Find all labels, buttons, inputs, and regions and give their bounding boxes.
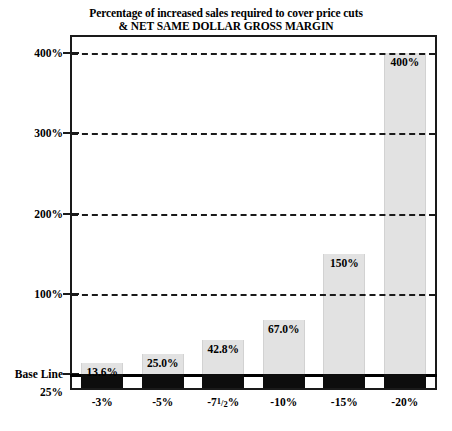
baseline-rule — [70, 374, 437, 377]
bar-value-label: 400% — [390, 56, 419, 68]
y-axis-label-400: 400% — [34, 47, 63, 59]
x-axis: -3%-5%-71/2%-10%-15%-20% — [72, 396, 435, 416]
chart-title-line-1: Percentage of increased sales required t… — [0, 7, 452, 20]
gridline-200 — [72, 214, 435, 216]
x-axis-label: -5% — [152, 396, 173, 408]
plot-inner: 13.6%25.0%42.8%67.0%150%400% — [72, 37, 435, 388]
bar-group[interactable]: 67.0% — [263, 37, 305, 388]
bar-value-label: 67.0% — [268, 323, 300, 335]
x-axis-label: -10% — [270, 396, 297, 408]
bar-group[interactable]: 42.8% — [202, 37, 244, 388]
gridline-400 — [72, 53, 435, 55]
bar-below-baseline[interactable] — [384, 374, 426, 388]
bar-value-label: 13.6% — [86, 366, 118, 378]
y-axis-label-baseline: Base Line — [15, 368, 63, 380]
chart-title-line-2: & NET SAME DOLLAR GROSS MARGIN — [0, 20, 452, 33]
x-axis-label-fraction: 1/2 — [217, 398, 228, 408]
x-axis-label-suffix: % — [228, 396, 240, 408]
x-axis-label: -3% — [92, 396, 113, 408]
y-axis-label-300: 300% — [34, 127, 63, 139]
bar-group[interactable]: 25.0% — [142, 37, 184, 388]
y-axis-label-200: 200% — [34, 208, 63, 220]
bar-group[interactable]: 13.6% — [81, 37, 123, 388]
bar-below-baseline[interactable] — [263, 374, 305, 388]
bar-value-label: 25.0% — [147, 357, 179, 369]
bar-value-label: 42.8% — [207, 343, 239, 355]
chart-root: Percentage of increased sales required t… — [0, 0, 452, 431]
bar-below-baseline[interactable] — [323, 374, 365, 388]
x-axis-label-integer: -7 — [207, 396, 217, 408]
bars-layer: 13.6%25.0%42.8%67.0%150%400% — [72, 37, 435, 388]
y-axis-label-below-baseline: 25% — [40, 386, 63, 398]
bar-value-label: 150% — [330, 257, 359, 269]
x-axis-label: -15% — [331, 396, 358, 408]
y-axis-label-100: 100% — [34, 288, 63, 300]
chart-title: Percentage of increased sales required t… — [0, 7, 452, 33]
x-axis-label: -20% — [391, 396, 418, 408]
gridline-100 — [72, 294, 435, 296]
bar-group[interactable]: 400% — [384, 37, 426, 388]
bar-above-baseline[interactable] — [323, 254, 365, 374]
bar-below-baseline[interactable] — [202, 374, 244, 388]
bar-group[interactable]: 150% — [323, 37, 365, 388]
gridline-300 — [72, 133, 435, 135]
x-axis-label: -71/2% — [207, 396, 239, 408]
bar-below-baseline[interactable] — [142, 374, 184, 388]
